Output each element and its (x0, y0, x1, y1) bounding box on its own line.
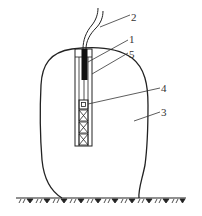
leader-3 (134, 112, 160, 121)
leader-1 (88, 40, 128, 62)
sensor-box-inner (82, 103, 86, 107)
label-3: 3 (161, 107, 167, 118)
leader-5 (92, 53, 128, 74)
sensor-box (79, 100, 88, 109)
ground-hatching (19, 199, 185, 203)
schematic-svg (0, 0, 202, 216)
label-2: 2 (131, 12, 137, 23)
label-4: 4 (161, 83, 167, 94)
label-1: 1 (129, 34, 135, 45)
leader-4 (88, 88, 160, 104)
lattice (79, 110, 88, 145)
leader-lines (88, 15, 160, 121)
mass-body-outline (40, 48, 148, 198)
label-5: 5 (129, 49, 135, 60)
diagram-canvas: 2 1 5 4 3 (0, 0, 202, 216)
leader-2 (100, 15, 130, 27)
rod (82, 49, 88, 80)
